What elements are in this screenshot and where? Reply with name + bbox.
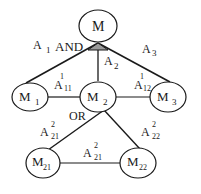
edge-m2-m22: [104, 110, 140, 149]
node-m1-sub: 1: [35, 97, 40, 107]
edge-label-a2-sub: 2: [114, 61, 119, 71]
edge-label-a21-left-sub: 21: [51, 132, 59, 141]
edge-label-a22: A: [141, 125, 150, 139]
edge-label-a1-sub: 1: [46, 45, 51, 55]
edge-label-a3-sub: 3: [152, 48, 157, 58]
edge-label-a21-bottom-sub: 21: [94, 153, 102, 162]
node-m22-sub: 22: [139, 163, 147, 172]
edge-label-a21-bottom-sup: 2: [94, 141, 98, 150]
and-label: AND: [55, 39, 83, 54]
edge-label-a22-sup: 2: [152, 120, 156, 129]
edge-label-a2: A: [104, 54, 113, 68]
edge-label-a1: A: [33, 38, 42, 52]
edge-label-a12-sub: 12: [143, 84, 151, 93]
decomposition-diagram: M M 1 M 2 M 3 M 21 M 22 AND OR A 1 A 2 A…: [0, 0, 201, 194]
node-m2-label: M: [87, 89, 99, 104]
node-root-label: M: [92, 19, 105, 34]
edge-label-a11-sub: 11: [64, 84, 72, 93]
edge-label-a3: A: [142, 42, 151, 56]
edge-label-a21-bottom: A: [83, 146, 92, 160]
edge-label-a22-sub: 22: [152, 132, 160, 141]
node-m22-label: M: [127, 154, 139, 169]
node-m1-label: M: [19, 89, 31, 104]
diagram-svg: M M 1 M 2 M 3 M 21 M 22 AND OR A 1 A 2 A…: [0, 0, 201, 194]
edge-label-a11-sup: 1: [60, 72, 64, 81]
or-label: OR: [69, 109, 86, 123]
node-m3-sub: 3: [172, 97, 177, 107]
edge-label-a12-sup: 1: [140, 72, 144, 81]
edge-label-a21-left-sup: 2: [51, 120, 55, 129]
node-m2-sub: 2: [103, 97, 108, 107]
node-m3-label: M: [157, 89, 169, 104]
node-m21-sub: 21: [43, 163, 51, 172]
edge-label-a21-left: A: [40, 125, 49, 139]
